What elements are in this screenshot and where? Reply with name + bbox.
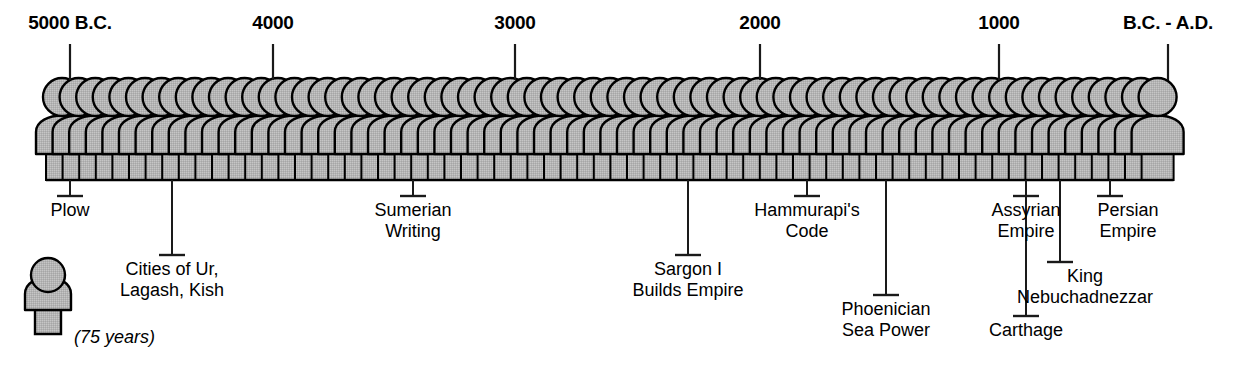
annotation-leader (1097, 180, 1123, 196)
axis-label: 5000 B.C. (28, 12, 112, 34)
timeline-diagram: 5000 B.C.4000300020001000B.C. - A.D. Plo… (0, 0, 1242, 367)
annotation-label-carthage: Carthage (989, 320, 1063, 341)
axis-label: 4000 (252, 12, 293, 34)
annotation-label-assyrian-empire: Assyrian Empire (991, 200, 1060, 242)
legend-figure (25, 258, 71, 334)
annotation-label-king-nebuchadnezzar: King Nebuchadnezzar (1017, 266, 1153, 308)
axis-label: 1000 (978, 12, 1019, 34)
annotation-label-sargon-i: Sargon I Builds Empire (632, 259, 743, 301)
annotation-label-hammurapis-code: Hammurapi's Code (754, 200, 859, 242)
annotation-leader (873, 180, 899, 295)
axis-label: 2000 (739, 12, 780, 34)
annotation-leader (675, 180, 701, 255)
axis-label: 3000 (494, 12, 535, 34)
annotation-label-plow: Plow (50, 200, 89, 221)
axis-tick-group (70, 44, 1168, 80)
annotation-label-phoenician: Phoenician Sea Power (841, 299, 930, 341)
axis-label: B.C. - A.D. (1123, 12, 1213, 34)
annotation-leader (400, 180, 426, 196)
figure-row (36, 78, 1184, 180)
annotation-leader (794, 180, 820, 196)
legend-caption: (75 years) (74, 327, 155, 348)
annotation-label-cities-ur: Cities of Ur, Lagash, Kish (120, 259, 224, 301)
annotation-leader (57, 180, 83, 196)
timeline-artwork (0, 0, 1242, 367)
annotation-label-sumerian-writing: Sumerian Writing (374, 200, 451, 242)
annotation-leader (159, 180, 185, 255)
annotation-label-persian-empire: Persian Empire (1097, 200, 1158, 242)
